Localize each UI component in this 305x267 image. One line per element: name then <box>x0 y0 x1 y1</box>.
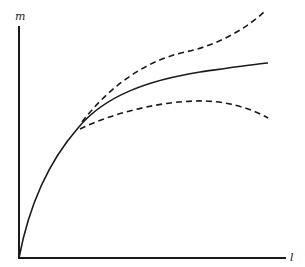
diagram: m l <box>0 0 305 267</box>
y-axis-label: m <box>15 10 25 23</box>
x-axis-label: l <box>290 251 294 264</box>
lower-dashed-curve <box>80 101 268 129</box>
central-curve <box>19 63 268 258</box>
